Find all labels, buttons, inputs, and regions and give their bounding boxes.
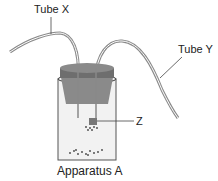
label-tube-x: Tube X bbox=[34, 3, 69, 15]
label-z: Z bbox=[136, 115, 143, 127]
apparatus-diagram bbox=[0, 0, 218, 181]
label-tube-y: Tube Y bbox=[178, 43, 213, 55]
caption-apparatus: Apparatus A bbox=[57, 164, 122, 178]
substance-z bbox=[89, 118, 97, 125]
stopper bbox=[60, 63, 114, 104]
